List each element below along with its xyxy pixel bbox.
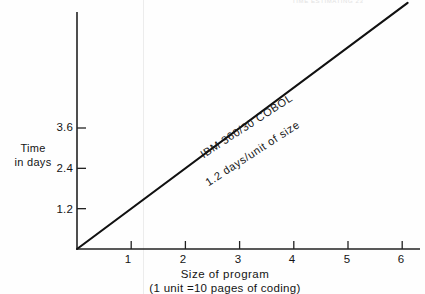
x-axis-ticks [131, 241, 402, 249]
x-tick-label-2: 2 [171, 253, 195, 265]
y-axis-title-line-2: in days [2, 156, 64, 170]
y-axis-title: Time in days [2, 142, 64, 169]
x-tick-label-1: 1 [116, 253, 140, 265]
y-axis-title-line-1: Time [2, 142, 64, 156]
y-axis-ticks [77, 128, 86, 209]
y-tick-label-3: 3.6 [49, 121, 73, 133]
y-tick-label-1: 1.2 [49, 203, 73, 215]
x-tick-label-5: 5 [335, 253, 359, 265]
x-axis-title: Size of program [145, 268, 305, 280]
x-axis-subtitle: (1 unit =10 pages of coding) [125, 282, 325, 294]
chart-figure: TIME ESTIMATING 23 3.6 2.4 1.2 Time in d… [0, 0, 425, 294]
x-tick-label-4: 4 [280, 253, 304, 265]
x-tick-label-6: 6 [389, 253, 413, 265]
x-tick-label-3: 3 [226, 253, 250, 265]
